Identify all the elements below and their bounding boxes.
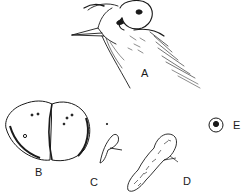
label-b: B (35, 167, 42, 178)
label-e: E (233, 120, 240, 131)
panel-a-bird-drawing (72, 1, 200, 88)
panel-c-drawing (100, 123, 122, 163)
panel-e-drawing (209, 118, 223, 132)
panel-d-drawing (128, 134, 178, 191)
panel-b-drawing (6, 101, 90, 161)
label-a: A (141, 68, 148, 79)
label-c: C (90, 177, 98, 188)
label-d: D (183, 176, 191, 187)
